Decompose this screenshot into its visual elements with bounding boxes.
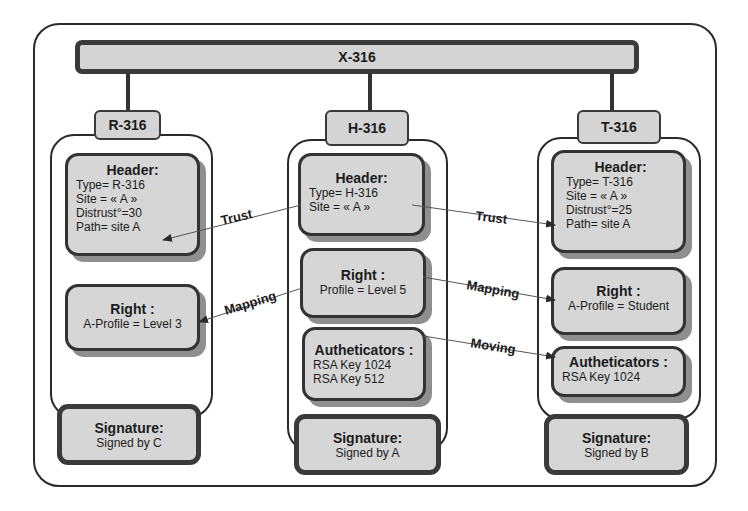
- header-line: Path= site A: [76, 220, 189, 234]
- t316-right-box: Right : A-Profile = Student: [551, 267, 686, 335]
- signature-line: Signed by B: [584, 446, 649, 460]
- h316-right-box: Right : Profile = Level 5: [300, 248, 426, 318]
- signature-line: Signed by C: [96, 436, 161, 450]
- header-title: Header:: [309, 170, 414, 186]
- right-title: Right :: [562, 283, 675, 299]
- authenticators-line: RSA Key 512: [313, 372, 415, 386]
- tab-label: T-316: [601, 119, 637, 135]
- root-node-x316: X-316: [75, 40, 639, 74]
- connector-t: [610, 73, 614, 111]
- h316-header-box: Header: Type= H-316 Site = « A »: [298, 153, 425, 236]
- tab-label: H-316: [348, 120, 386, 136]
- root-label: X-316: [338, 49, 375, 65]
- signature-line: Signed by A: [335, 446, 399, 460]
- t316-signature-box: Signature: Signed by B: [544, 414, 689, 475]
- header-line: Type= R-316: [76, 178, 189, 192]
- header-line: Type= T-316: [566, 175, 675, 189]
- header-line: Distrust°=25: [566, 203, 675, 217]
- authenticators-line: RSA Key 1024: [313, 358, 415, 372]
- connector-h: [368, 73, 372, 111]
- header-line: Site = « A »: [566, 189, 675, 203]
- t316-header-box: Header: Type= T-316 Site = « A » Distrus…: [551, 150, 686, 253]
- t316-authenticators-box: Autheticators : RSA Key 1024: [551, 346, 686, 397]
- tab-label: R-316: [108, 117, 146, 133]
- right-line: A-Profile = Student: [562, 299, 675, 313]
- right-line: Profile = Level 5: [311, 283, 415, 297]
- right-title: Right :: [76, 301, 189, 317]
- r316-header-box: Header: Type= R-316 Site = « A » Distrus…: [65, 153, 200, 256]
- r316-signature-box: Signature: Signed by C: [57, 404, 201, 465]
- header-line: Type= H-316: [309, 186, 414, 200]
- signature-title: Signature:: [333, 430, 402, 446]
- tab-t316: T-316: [577, 110, 661, 144]
- header-title: Header:: [566, 159, 675, 175]
- h316-signature-box: Signature: Signed by A: [294, 414, 441, 475]
- h316-authenticators-box: Autheticators : RSA Key 1024 RSA Key 512: [302, 327, 426, 401]
- authenticators-title: Autheticators :: [562, 354, 675, 370]
- authenticators-title: Autheticators :: [313, 342, 415, 358]
- right-title: Right :: [311, 267, 415, 283]
- connector-r: [126, 73, 130, 111]
- header-line: Site = « A »: [309, 200, 414, 214]
- tab-r316: R-316: [94, 110, 161, 140]
- r316-right-box: Right : A-Profile = Level 3: [65, 284, 200, 351]
- header-line: Distrust°=30: [76, 206, 189, 220]
- header-line: Path= site A: [566, 217, 675, 231]
- right-line: A-Profile = Level 3: [76, 317, 189, 331]
- header-line: Site = « A »: [76, 192, 189, 206]
- tab-h316: H-316: [325, 110, 409, 146]
- authenticators-line: RSA Key 1024: [562, 370, 675, 384]
- signature-title: Signature:: [582, 430, 651, 446]
- signature-title: Signature:: [94, 420, 163, 436]
- header-title: Header:: [76, 162, 189, 178]
